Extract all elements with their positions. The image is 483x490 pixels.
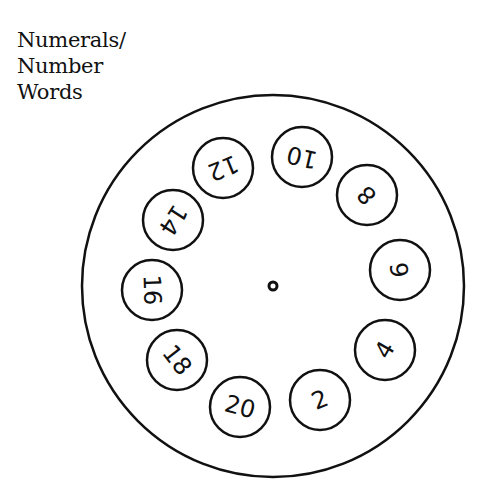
number-label: 16 (137, 274, 166, 306)
number-bubble-20: 20 (210, 377, 270, 437)
center-hole-icon (269, 282, 277, 290)
number-label: 8 (352, 180, 383, 210)
number-label: 12 (204, 149, 243, 186)
number-bubble-16: 16 (122, 260, 182, 320)
number-bubble-6: 6 (370, 240, 430, 300)
number-bubble-8: 8 (337, 165, 397, 225)
number-label: 2 (307, 384, 332, 416)
number-label: 4 (369, 336, 401, 363)
number-wheel: 1086422018161412 (0, 0, 483, 490)
number-bubble-10: 10 (272, 127, 332, 187)
number-bubble-4: 4 (355, 320, 415, 380)
number-label: 18 (157, 339, 198, 380)
number-bubble-14: 14 (143, 190, 203, 250)
number-bubble-2: 2 (290, 370, 350, 430)
number-label: 14 (153, 200, 193, 241)
number-bubble-18: 18 (147, 330, 207, 390)
number-label: 6 (385, 261, 415, 280)
number-bubble-12: 12 (193, 138, 253, 198)
number-label: 20 (222, 390, 259, 425)
number-label: 10 (284, 140, 320, 174)
